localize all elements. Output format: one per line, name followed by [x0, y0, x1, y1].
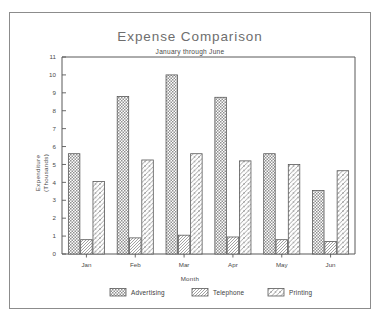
chart-outer-frame: Expense Comparison January through June …: [9, 12, 371, 309]
bar-telephone-mar[interactable]: [178, 235, 190, 254]
bar-advertising-mar[interactable]: [166, 75, 178, 254]
bar-group: [68, 154, 104, 254]
legend-swatch-telephone[interactable]: [192, 289, 208, 297]
x-tick-label-jun: Jun: [326, 261, 337, 268]
bar-telephone-may[interactable]: [276, 240, 288, 254]
chart-title: Expense Comparison: [117, 29, 262, 44]
bar-group: [313, 171, 349, 254]
bar-printing-jan[interactable]: [93, 181, 105, 254]
y-tick-label: 5: [53, 161, 57, 168]
bar-printing-apr[interactable]: [239, 161, 251, 254]
bar-telephone-feb[interactable]: [130, 238, 142, 254]
plot-area-border: [62, 57, 355, 254]
y-axis-ticks: 01234567891011: [49, 53, 66, 257]
chart-subtitle: January through June: [156, 48, 225, 56]
x-axis-tick-labels: JanFebMarAprMayJun: [81, 254, 336, 268]
y-tick-label: 4: [53, 179, 57, 186]
bar-group: [264, 154, 300, 254]
chart-axes: [62, 57, 355, 254]
bar-advertising-jun[interactable]: [313, 190, 325, 254]
legend-label-telephone: Telephone: [213, 289, 245, 297]
y-tick-label: 1: [53, 232, 57, 239]
legend-label-printing: Printing: [289, 289, 313, 297]
chart-legend: AdvertisingTelephonePrinting: [110, 289, 313, 297]
y-tick-label: 9: [53, 89, 57, 96]
bar-printing-may[interactable]: [288, 164, 300, 254]
bar-group: [215, 97, 251, 254]
bar-telephone-apr[interactable]: [227, 237, 239, 254]
y-axis-label-line2: (Thousands): [42, 154, 49, 192]
x-axis-label: Month: [181, 275, 200, 282]
bar-telephone-jan[interactable]: [81, 240, 93, 254]
expense-comparison-chart: Expense Comparison January through June …: [10, 13, 370, 308]
bar-advertising-jan[interactable]: [68, 154, 80, 254]
bar-group: [166, 75, 202, 254]
legend-swatch-advertising[interactable]: [110, 289, 126, 297]
bar-groups: [68, 75, 348, 254]
bar-group: [117, 96, 153, 254]
x-tick-label-may: May: [276, 261, 289, 268]
y-tick-label: 11: [50, 53, 57, 60]
legend-label-advertising: Advertising: [131, 289, 165, 297]
y-tick-label: 8: [53, 107, 57, 114]
x-tick-label-jan: Jan: [81, 261, 92, 268]
y-axis-label-line1: Expenditure: [34, 155, 41, 192]
x-tick-label-apr: Apr: [228, 261, 238, 268]
bar-telephone-jun[interactable]: [325, 241, 337, 254]
bar-printing-feb[interactable]: [142, 160, 154, 254]
x-tick-label-feb: Feb: [130, 261, 141, 268]
y-tick-label: 0: [53, 250, 57, 257]
legend-swatch-printing[interactable]: [268, 289, 284, 297]
y-tick-label: 10: [49, 71, 56, 78]
y-tick-label: 2: [53, 214, 57, 221]
bar-advertising-apr[interactable]: [215, 97, 227, 254]
bar-advertising-may[interactable]: [264, 154, 276, 254]
chart-window: Expense Comparison January through June …: [0, 0, 382, 322]
bar-printing-mar[interactable]: [191, 154, 203, 254]
y-tick-label: 6: [53, 143, 57, 150]
bar-advertising-feb[interactable]: [117, 96, 129, 254]
bar-printing-jun[interactable]: [337, 171, 349, 254]
y-tick-label: 7: [53, 125, 57, 132]
y-tick-label: 3: [53, 196, 57, 203]
x-tick-label-mar: Mar: [179, 261, 190, 268]
